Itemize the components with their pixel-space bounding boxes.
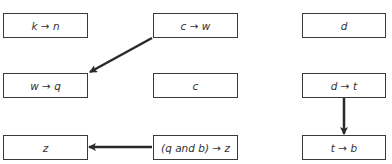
arrow-c-w-to-w-q: [90, 38, 152, 72]
node-t-implies-b: t → b: [302, 135, 386, 160]
node-z: z: [3, 135, 88, 160]
node-d: d: [302, 13, 386, 38]
node-c-implies-w: c → w: [153, 13, 238, 38]
node-c: c: [153, 73, 238, 98]
node-w-implies-q: w → q: [3, 73, 88, 98]
node-d-implies-t: d → t: [302, 73, 386, 98]
node-q-and-b-implies-z: (q and b) → z: [153, 135, 238, 160]
node-k-implies-n: k → n: [3, 13, 88, 38]
